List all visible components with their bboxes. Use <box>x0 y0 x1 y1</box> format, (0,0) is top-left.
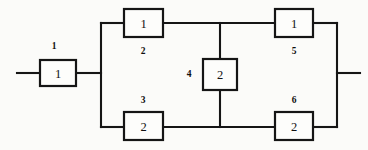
block-4-value: 2 <box>217 68 223 82</box>
block-3-index-label: 3 <box>141 95 146 105</box>
block-5-index-label: 5 <box>292 46 297 56</box>
block-2-index-label: 2 <box>141 46 146 56</box>
block-2[interactable]: 1 2 <box>124 9 163 56</box>
block-5[interactable]: 1 5 <box>275 9 313 56</box>
block-2-value: 1 <box>140 17 146 31</box>
block-1-index-label: 1 <box>52 41 57 51</box>
block-1-value: 1 <box>55 67 61 81</box>
reliability-block-diagram: 1 1 1 2 2 3 2 4 1 5 2 6 <box>0 0 368 150</box>
block-3[interactable]: 2 3 <box>124 95 163 140</box>
block-6-value: 2 <box>291 120 297 134</box>
block-4[interactable]: 2 4 <box>187 59 237 90</box>
block-1[interactable]: 1 1 <box>40 41 76 86</box>
block-4-index-label: 4 <box>187 69 192 79</box>
block-3-value: 2 <box>140 120 146 134</box>
diagram-canvas: 1 1 1 2 2 3 2 4 1 5 2 6 <box>0 0 368 150</box>
block-5-value: 1 <box>291 17 297 31</box>
block-6-index-label: 6 <box>292 95 297 105</box>
block-6[interactable]: 2 6 <box>275 95 313 140</box>
